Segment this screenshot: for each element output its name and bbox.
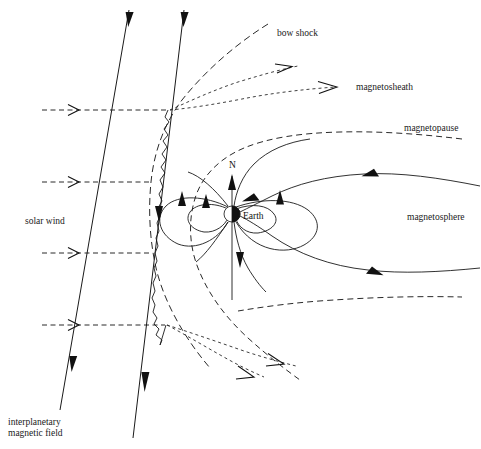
label-magnetopause: magnetopause — [404, 123, 458, 133]
magnetosheath-flow-lines — [167, 64, 337, 379]
imf-line-right — [133, 10, 189, 438]
magnetosheath-flow-lower-2 — [167, 325, 264, 379]
earth-globe — [224, 206, 240, 222]
label-north-pole: N — [229, 160, 236, 170]
shocked-field-line — [152, 110, 169, 345]
magnetotail-line-north — [240, 169, 480, 212]
label-bow-shock: bow shock — [277, 28, 318, 38]
magnetosheath-flow-upper-2 — [170, 82, 337, 111]
magnetopause-tail-lower — [238, 297, 462, 311]
label-magnetosheath: magnetosheath — [356, 82, 413, 92]
magnetosheath-flow-upper — [170, 64, 298, 110]
imf-line-left — [60, 10, 134, 410]
label-solar-wind: solar wind — [25, 216, 65, 226]
magnetotail-line-south — [240, 216, 480, 275]
label-magnetosphere: magnetosphere — [407, 212, 465, 222]
magnetic-axis — [228, 174, 236, 300]
solar-wind-arrow-1 — [42, 105, 168, 116]
label-imf-line2: magnetic field — [8, 428, 63, 438]
label-imf-line1: interplanetary — [8, 417, 61, 427]
solar-wind-arrow-3 — [42, 248, 152, 259]
label-earth: Earth — [243, 211, 264, 221]
solar-wind-arrow-2 — [42, 177, 150, 188]
magnetosphere-diagram: bow shock magnetosheath magnetopause mag… — [0, 0, 481, 449]
interplanetary-magnetic-field-lines — [60, 10, 189, 438]
diagram-canvas: bow shock magnetosheath magnetopause mag… — [0, 0, 481, 449]
magnetosheath-flow-lower — [167, 325, 296, 366]
closed-loop-day-outer — [160, 191, 228, 246]
cusp-field-line-lower — [196, 222, 228, 262]
